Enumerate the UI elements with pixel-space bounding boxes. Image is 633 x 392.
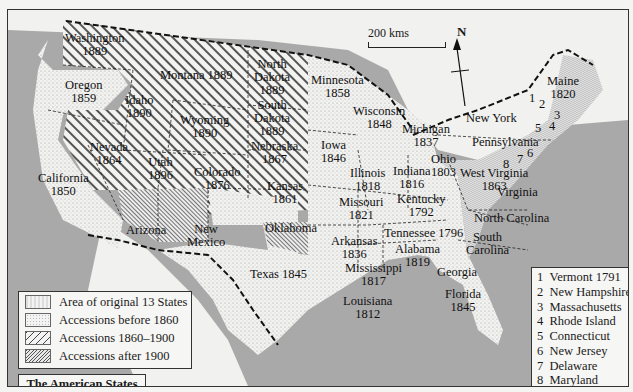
- numbered-key: 1 Vermont 1791 2 New Hampshire 3 Massach…: [531, 267, 629, 387]
- key-item: 4 Rhode Island: [537, 314, 616, 328]
- key-item: 6 New Jersey: [537, 344, 607, 358]
- label-new-york: New York: [466, 112, 517, 125]
- north-label: N: [457, 24, 466, 39]
- label-oregon: Oregon1859: [65, 79, 103, 105]
- label-colorado: Colorado1876: [194, 166, 241, 192]
- label-florida: Florida1845: [445, 288, 481, 314]
- map-title: The American States: [18, 374, 146, 387]
- label-num-2: 2: [539, 98, 545, 111]
- label-utah: Utah1896: [148, 156, 173, 182]
- label-washington: Washington1889: [65, 32, 124, 58]
- label-kentucky: Kentucky1792: [397, 193, 446, 219]
- original-13-swatch-icon: [25, 295, 51, 309]
- label-minnesota: Minnesota1858: [311, 74, 364, 100]
- label-num-5: 5: [535, 122, 541, 135]
- label-nebraska: Nebraska1867: [251, 140, 298, 166]
- label-montana: Montana 1889: [160, 69, 233, 82]
- key-item: 3 Massachusetts: [537, 300, 622, 314]
- label-south-dakota: SouthDakota1889: [254, 99, 290, 138]
- label-mississippi: Mississippi1817: [345, 262, 402, 288]
- legend-item-original-13: Area of original 13 States: [25, 294, 187, 310]
- scale-line: [368, 42, 446, 48]
- scale-label: 200 kms: [368, 26, 409, 40]
- key-item: 2 New Hampshire: [537, 285, 629, 299]
- label-louisiana: Louisiana1812: [343, 295, 392, 321]
- label-georgia: Georgia: [437, 266, 477, 279]
- label-south-carolina: SouthCarolina: [466, 231, 509, 257]
- map-frame: 200 kms N Washington1889 Oregon1859 Cali…: [7, 9, 629, 387]
- label-ohio: Ohio1803: [431, 153, 456, 179]
- wide-hatch-swatch-icon: [25, 331, 51, 345]
- label-wyoming: Wyoming1890: [180, 114, 229, 140]
- north-arrow: N: [457, 24, 466, 40]
- key-item: 1 Vermont 1791: [537, 270, 621, 284]
- label-california: California1850: [38, 172, 89, 198]
- key-item: 7 Delaware: [537, 359, 597, 373]
- label-kansas: Kansas1861: [267, 180, 303, 206]
- label-num-8: 8: [503, 158, 509, 171]
- label-idaho: Idaho1890: [125, 94, 153, 120]
- north-arrow-icon: [451, 38, 473, 108]
- legend-item-1860-1900: Accessions 1860–1900: [25, 330, 175, 346]
- label-michigan: Michigan1837: [402, 123, 450, 149]
- label-nevada: Nevada1864: [90, 141, 128, 167]
- key-item: 8 Maryland: [537, 373, 598, 387]
- key-item: 5 Connecticut: [537, 329, 610, 343]
- fine-hatch-swatch-icon: [25, 349, 51, 363]
- scale-bar: 200 kms: [368, 26, 409, 41]
- label-west-virginia: West Virginia1863: [460, 167, 528, 193]
- label-wisconsin: Wisconsin1848: [353, 105, 405, 131]
- label-iowa: Iowa1846: [321, 139, 346, 165]
- label-tennessee: Tennessee 1796: [384, 227, 463, 240]
- label-north-carolina: North Carolina: [474, 212, 549, 225]
- label-arkansas: Arkansas1836: [331, 235, 378, 261]
- label-oklahoma: Oklahoma: [265, 222, 317, 235]
- dotted-swatch-icon: [25, 313, 51, 327]
- label-new-mexico: NewMexico: [187, 223, 225, 249]
- legend: Area of original 13 States Accessions be…: [18, 291, 192, 369]
- legend-item-after-1900: Accessions after 1900: [25, 348, 169, 364]
- label-num-6: 6: [527, 147, 533, 160]
- legend-item-before-1860: Accessions before 1860: [25, 312, 178, 328]
- label-alabama: Alabama1819: [395, 243, 440, 269]
- label-missouri: Missouri1821: [339, 196, 383, 222]
- label-maine: Maine1820: [547, 75, 579, 101]
- label-num-1: 1: [529, 92, 535, 105]
- label-arizona: Arizona: [126, 224, 166, 237]
- label-indiana: Indiana1816: [393, 165, 430, 191]
- label-num-7: 7: [517, 153, 523, 166]
- label-texas: Texas 1845: [250, 268, 307, 281]
- label-north-dakota: NorthDakota1889: [254, 58, 290, 97]
- label-illinois: Illinois1818: [350, 167, 385, 193]
- label-num-4: 4: [549, 120, 555, 133]
